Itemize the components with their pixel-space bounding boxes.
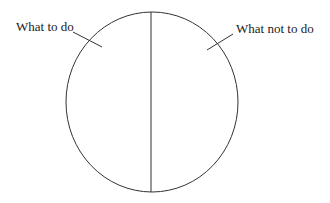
label-what-to-do: What to do bbox=[16, 20, 74, 33]
divided-circle-diagram: What to do What not to do bbox=[0, 0, 330, 203]
circle-outline bbox=[66, 12, 238, 192]
label-what-not-to-do: What not to do bbox=[236, 22, 314, 35]
leader-line-left bbox=[73, 32, 102, 47]
